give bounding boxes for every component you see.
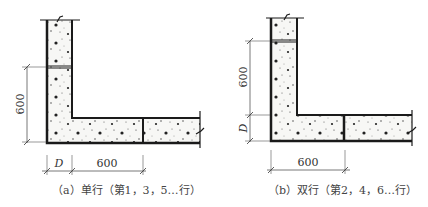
panel-a-caption: （a）单行（第1，3，5…行） bbox=[52, 181, 201, 197]
panel-a-dim-horizontal: 600 bbox=[97, 157, 118, 170]
panel-b-caption: （b）双行（第2，4，6…行） bbox=[268, 181, 417, 197]
panel-a-dim-depth: D bbox=[54, 157, 64, 170]
panel-b-drawing: 600 D 600 bbox=[237, 14, 416, 174]
panel-b-dim-horizontal: 600 bbox=[298, 156, 319, 169]
panel-a-dim-vertical: 600 bbox=[14, 94, 27, 115]
panel-a-horizontal-wall bbox=[72, 118, 200, 142]
panel-a-drawing: 600 D 600 bbox=[14, 16, 204, 175]
panel-a-vertical-wall bbox=[47, 20, 72, 142]
panel-b-dim-depth: D bbox=[237, 123, 250, 133]
panel-b-dim-vertical: 600 bbox=[237, 67, 250, 88]
panel-b-horizontal-wall bbox=[271, 115, 412, 141]
corner-block-diagram: 600 D 600 600 D bbox=[0, 0, 428, 207]
